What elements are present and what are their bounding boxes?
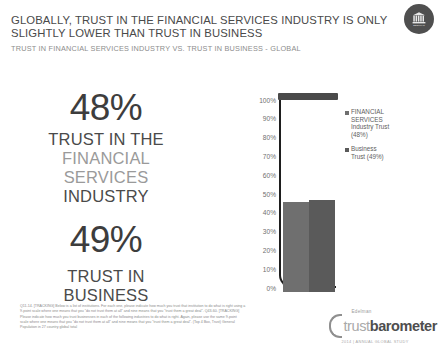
stat-secondary-label-line2: BUSINESS [0,286,212,305]
svg-text:EDELMAN: EDELMAN [413,24,425,27]
stat-primary-label-line3: SERVICES [0,168,212,187]
footnote-line-5: Population in 27 country global total [20,325,288,330]
stat-primary-label-line1: TRUST IN THE [0,130,212,149]
y-tick-100: 100% [259,97,276,104]
stat-primary-value: 48% [0,88,212,128]
bar-business [309,200,335,292]
brand-arc-icon [329,314,342,338]
y-axis-labels: 100% 90% 80% 70% 60% 50% 40% 30% 20% 10%… [250,96,276,286]
y-tick-30: 30% [263,228,276,235]
bar-financial-services [283,202,309,292]
bar-chart: 100% 90% 80% 70% 60% 50% 40% 30% 20% 10%… [250,96,342,292]
brand-wordmark: trustbarometer [329,314,437,338]
page-title: GLOBALLY, TRUST IN THE FINANCIAL SERVICE… [11,14,401,40]
legend-fs-line2: SERVICES [351,116,383,123]
y-tick-60: 60% [263,172,276,179]
y-tick-80: 80% [263,134,276,141]
brand-tagline: 2014 | ANNUAL GLOBAL STUDY [341,339,437,344]
slide-root: GLOBALLY, TRUST IN THE FINANCIAL SERVICE… [0,0,443,358]
page-subtitle: TRUST IN FINANCIAL SERVICES INDUSTRY VS.… [11,44,401,53]
stat-primary-label-line4: INDUSTRY [0,187,212,206]
legend-item-financial-services: FINANCIAL SERVICES Industry Trust (48%) [345,108,441,138]
legend-fs-line3: Industry Trust [351,123,389,130]
legend-swatch-icon-business [345,148,349,152]
legend-fs-line4: (48%) [351,131,368,138]
legend-swatch-icon-financial-services [345,111,349,115]
legend-label-financial-services: FINANCIAL SERVICES Industry Trust (48%) [351,108,389,138]
stat-secondary-label-line1: TRUST IN [0,267,212,286]
y-tick-50: 50% [263,191,276,198]
stat-primary-label-line2: FINANCIAL [0,149,212,168]
y-tick-70: 70% [263,153,276,160]
header: GLOBALLY, TRUST IN THE FINANCIAL SERVICE… [11,14,401,53]
edelman-seal-icon: EDELMAN [404,4,434,34]
legend-item-business: Business Trust (49%) [345,145,441,160]
brand-word-bold: barometer [370,318,437,334]
stat-secondary-value: 49% [0,220,212,260]
y-tick-10: 10% [263,266,276,273]
stat-primary-label: TRUST IN THE FINANCIAL SERVICES INDUSTRY [0,130,212,206]
y-tick-0: 0% [266,285,276,292]
stat-panel: 48% TRUST IN THE FINANCIAL SERVICES INDU… [0,88,212,305]
trustbarometer-logo: Edelman trustbarometer 2014 | ANNUAL GLO… [329,309,437,344]
stat-secondary-label: TRUST IN BUSINESS [0,267,212,305]
legend-label-business: Business Trust (49%) [351,145,384,160]
chart-legend: FINANCIAL SERVICES Industry Trust (48%) … [345,108,441,168]
y-tick-20: 20% [263,247,276,254]
brand-word-light: trust [343,318,369,334]
chart-frame-cap [278,93,338,100]
legend-bus-line2: Trust (49%) [351,153,384,160]
y-tick-40: 40% [263,209,276,216]
legend-bus-line1: Business [351,145,377,152]
brand-word: trustbarometer [343,319,437,334]
bar-group [283,104,335,292]
legend-fs-line1: FINANCIAL [351,108,384,115]
y-tick-90: 90% [263,115,276,122]
footnote: Q11-14. [TRACKING] Below is a list of in… [20,304,288,330]
